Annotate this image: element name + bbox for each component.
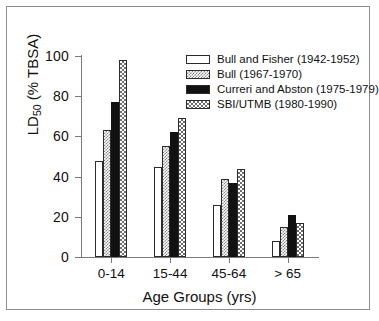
legend-label-1: Bull (1967-1970)	[217, 69, 302, 80]
y-tick-20	[75, 217, 81, 218]
y-tick-100	[75, 56, 81, 57]
bar-014-s2	[111, 102, 119, 257]
bar-014-s0	[95, 161, 103, 257]
legend-label-3: SBI/UTMB (1980-1990)	[217, 99, 337, 110]
bar-1544-s1	[162, 146, 170, 257]
legend-item-0: Bull and Fisher (1942-1952)	[186, 53, 379, 65]
y-tick-label-60: 60	[29, 129, 69, 143]
bar-1544-s0	[154, 167, 162, 257]
bar-1544-s2	[170, 132, 178, 257]
legend-item-2: Curreri and Abston (1975-1979)	[186, 83, 379, 95]
bar-65-s2	[288, 215, 296, 257]
legend-item-1: Bull (1967-1970)	[186, 68, 379, 80]
bar-65-s0	[272, 241, 280, 257]
bar-1544-s3	[178, 118, 186, 257]
figure-container: LD50 (% TBSA) Age Groups (yrs) 020406080…	[0, 0, 379, 321]
legend-item-3: SBI/UTMB (1980-1990)	[186, 98, 379, 110]
bar-4564-s2	[229, 183, 237, 257]
bar-65-s3	[296, 223, 304, 257]
legend-swatch-0	[186, 55, 210, 64]
bar-014-s3	[119, 60, 127, 257]
y-tick-80	[75, 96, 81, 97]
bar-4564-s1	[221, 179, 229, 257]
x-tick-3	[288, 258, 289, 263]
legend-swatch-2	[186, 85, 210, 94]
y-tick-0	[75, 257, 81, 258]
legend-label-0: Bull and Fisher (1942-1952)	[217, 54, 360, 65]
legend-label-2: Curreri and Abston (1975-1979)	[217, 84, 379, 95]
legend-swatch-3	[186, 100, 210, 109]
x-axis-title: Age Groups (yrs)	[82, 288, 317, 305]
y-tick-60	[75, 136, 81, 137]
x-tick-label-3: > 65	[253, 266, 323, 281]
x-axis-line	[81, 257, 319, 258]
y-tick-label-80: 80	[29, 89, 69, 103]
bar-65-s1	[280, 227, 288, 257]
bar-014-s1	[103, 130, 111, 257]
y-tick-label-100: 100	[29, 49, 69, 63]
y-axis-title-sub: 50	[31, 104, 43, 116]
bar-4564-s3	[237, 169, 245, 257]
legend-swatch-1	[186, 70, 210, 79]
bar-4564-s0	[213, 205, 221, 257]
x-tick-2	[229, 258, 230, 263]
x-tick-1	[170, 258, 171, 263]
y-tick-label-40: 40	[29, 170, 69, 184]
y-tick-label-0: 0	[29, 250, 69, 264]
x-tick-0	[111, 258, 112, 263]
y-tick-label-20: 20	[29, 210, 69, 224]
y-tick-40	[75, 177, 81, 178]
chart-legend: Bull and Fisher (1942-1952)Bull (1967-19…	[186, 53, 379, 113]
